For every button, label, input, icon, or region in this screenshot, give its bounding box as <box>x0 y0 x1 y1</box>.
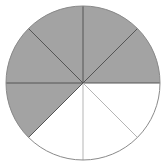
pie-circle <box>0 0 163 167</box>
fraction-circle-diagram <box>0 0 163 167</box>
